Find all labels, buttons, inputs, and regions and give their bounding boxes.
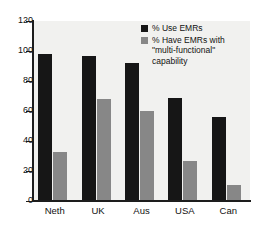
x-axis-label: Aus (120, 205, 163, 216)
y-axis-line (32, 20, 34, 202)
bar-group (38, 21, 67, 201)
y-axis-tick-label: 120 (9, 16, 33, 25)
y-axis-tick-label: 0 (9, 196, 33, 205)
bar (140, 111, 154, 201)
bar (125, 63, 139, 201)
y-axis-tick-label: 80 (9, 76, 33, 85)
x-axis-label: Can (207, 205, 250, 216)
y-axis-tick-label: 60 (9, 106, 33, 115)
legend-swatch-icon (141, 37, 148, 44)
bar (38, 54, 52, 201)
bar (82, 56, 96, 202)
bar-chart: 020406080100120 NethUKAusUSACan % Use EM… (0, 0, 265, 230)
bar (183, 161, 197, 202)
x-axis-line (32, 200, 251, 202)
legend: % Use EMRs% Have EMRs with "multi-functi… (141, 23, 225, 67)
y-axis: 020406080100120 (0, 0, 33, 230)
legend-item: % Have EMRs with "multi-functional" capa… (141, 35, 225, 67)
x-axis-label: USA (163, 205, 206, 216)
legend-swatch-icon (141, 25, 148, 32)
legend-item-label: % Use EMRs (152, 23, 203, 34)
x-axis-label: Neth (33, 205, 76, 216)
bar (168, 98, 182, 202)
bar (227, 185, 241, 202)
legend-item: % Use EMRs (141, 23, 225, 34)
x-axis-label: UK (76, 205, 119, 216)
y-axis-tick-label: 40 (9, 136, 33, 145)
y-axis-tick-label: 100 (9, 46, 33, 55)
y-axis-tick-label: 20 (9, 166, 33, 175)
bar-group (82, 21, 111, 201)
legend-item-label: % Have EMRs with "multi-functional" capa… (152, 35, 225, 67)
bar (212, 117, 226, 201)
bar (53, 152, 67, 202)
bar (97, 99, 111, 201)
